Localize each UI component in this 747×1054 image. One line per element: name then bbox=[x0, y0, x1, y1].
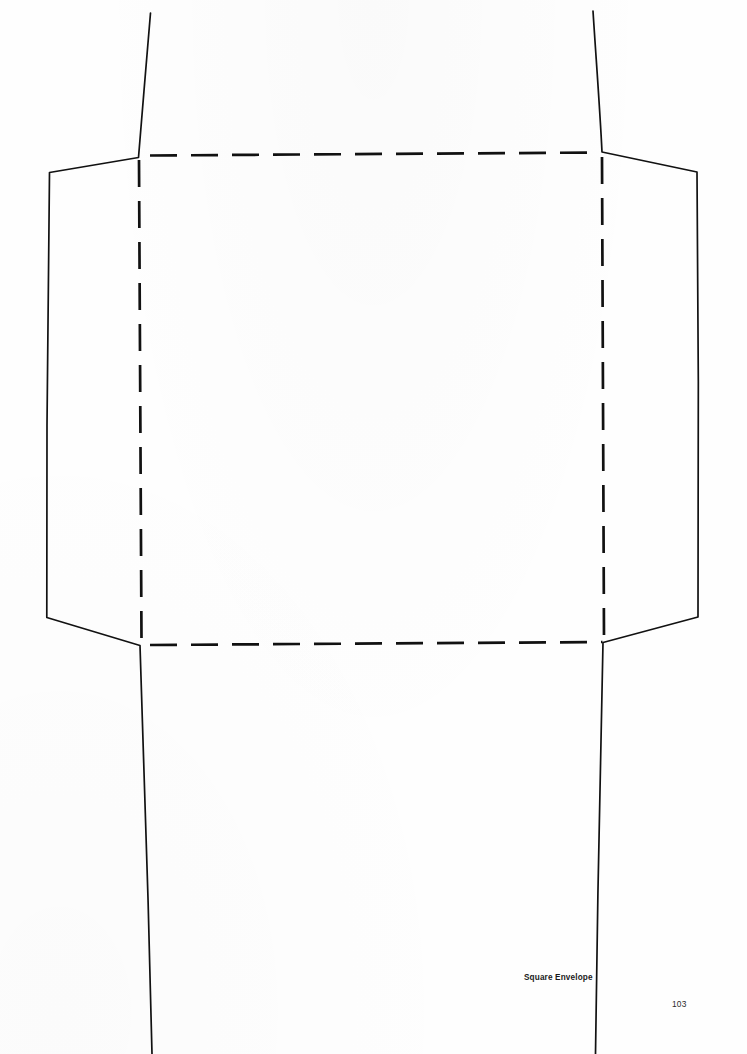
template-page: Square Envelope 103 bbox=[0, 0, 747, 1054]
envelope-template-diagram bbox=[0, 0, 747, 1054]
page-number: 103 bbox=[672, 1000, 687, 1008]
fold-lines-group bbox=[139, 153, 604, 646]
cut-lines-group bbox=[47, 11, 699, 1054]
fold-line-bottom bbox=[150, 642, 603, 645]
fold-line-top bbox=[150, 153, 601, 156]
cut-line-left-contour bbox=[47, 13, 152, 1054]
fold-line-left bbox=[139, 160, 142, 641]
diagram-caption: Square Envelope bbox=[524, 974, 593, 982]
cut-line-right-contour bbox=[593, 11, 698, 1054]
fold-line-right bbox=[602, 157, 604, 640]
